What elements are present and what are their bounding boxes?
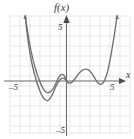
plot-svg: –5 5 5 –5 f(x) x: [0, 0, 134, 139]
curve-end-arrows: [23, 14, 119, 19]
x-axis-label: x: [125, 69, 131, 80]
function-curve-main: [25, 16, 117, 101]
function-label: f(x): [54, 1, 70, 14]
polynomial-graph-figure: –5 5 5 –5 f(x) x: [0, 0, 134, 139]
y-tick-negative-5: –5: [55, 125, 66, 135]
y-tick-positive-5: 5: [58, 22, 63, 32]
x-tick-negative-5: –5: [8, 82, 19, 92]
x-tick-positive-5: 5: [110, 82, 115, 92]
